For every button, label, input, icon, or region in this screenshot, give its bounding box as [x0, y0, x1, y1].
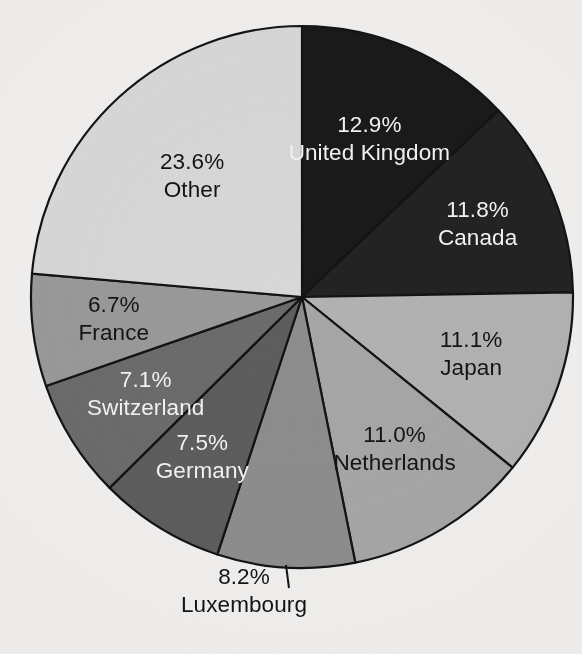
slice-value-text: 12.9% [337, 112, 401, 137]
slice-category-text: Canada [438, 225, 518, 250]
slice-value-text: 11.0% [363, 422, 426, 447]
slice-value-text: 7.5% [176, 430, 228, 455]
slice-value-text: 8.2% [218, 564, 270, 589]
slice-category-text: France [78, 320, 149, 345]
pie-chart: 12.9%United Kingdom11.8%Canada11.1%Japan… [0, 0, 582, 654]
slice-category-text: Switzerland [87, 395, 204, 420]
slice-value-text: 11.1% [440, 327, 503, 352]
slice-category-text: Netherlands [333, 450, 455, 475]
slice-category-text: United Kingdom [289, 140, 451, 165]
slice-value-text: 11.8% [446, 197, 509, 222]
slice-category-text: Germany [156, 458, 250, 483]
pie-chart-svg: 12.9%United Kingdom11.8%Canada11.1%Japan… [0, 0, 582, 654]
slice-category-text: Other [164, 177, 221, 202]
slice-value-text: 23.6% [160, 149, 224, 174]
slice-category-text: Luxembourg [181, 592, 307, 617]
slice-category-text: Japan [440, 355, 502, 380]
slice-value-text: 6.7% [88, 292, 140, 317]
slice-value-text: 7.1% [120, 367, 172, 392]
pie-label-luxembourg: 8.2%Luxembourg [181, 564, 307, 617]
